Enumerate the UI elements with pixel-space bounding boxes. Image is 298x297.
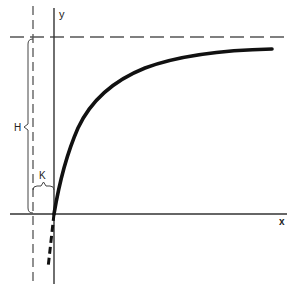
h-bracket xyxy=(24,39,33,213)
saturation-curve-diagram: H K y x xyxy=(0,0,298,297)
y-axis-label: y xyxy=(59,8,65,20)
saturation-curve xyxy=(54,49,272,214)
curve-extrapolation-dashed xyxy=(48,214,54,268)
k-bracket xyxy=(33,182,54,190)
x-axis-label: x xyxy=(279,216,285,227)
h-label: H xyxy=(14,122,21,133)
k-label: K xyxy=(39,170,46,181)
